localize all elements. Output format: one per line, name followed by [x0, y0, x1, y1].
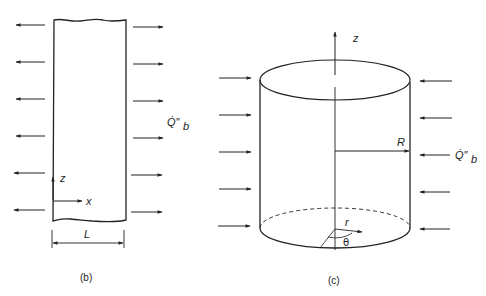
z-axis-label-b: z: [59, 172, 66, 184]
x-axis-label-b: x: [85, 195, 92, 207]
heat-flux-label-c: Q̇″ b: [455, 149, 477, 165]
left-inflow-arrows: [218, 78, 251, 226]
figure-b-slab: Q̇″ b z x L (b): [14, 19, 189, 283]
heat-flux-symbol-c: Q̇″: [455, 149, 469, 161]
caption-b: (b): [80, 272, 92, 283]
figure-c-cylinder: z R r θ Q̇″ b (c): [218, 32, 477, 286]
slab-outline: [53, 19, 126, 222]
left-heat-arrows: [14, 25, 45, 210]
theta-label: θ: [343, 237, 349, 248]
r-direction-arrow: [335, 229, 362, 232]
theta-reference-line: [320, 229, 335, 248]
right-inflow-arrows: [420, 81, 452, 229]
r-label: r: [345, 216, 350, 228]
heat-flux-symbol: Q̇″: [167, 116, 181, 128]
z-axis-label-c: z: [352, 32, 359, 44]
heat-flux-subscript: b: [183, 120, 189, 132]
radius-label-R: R: [397, 136, 405, 148]
diagram-canvas: Q̇″ b z x L (b) z: [0, 0, 486, 296]
heat-flux-label-b: Q̇″ b: [167, 116, 189, 132]
heat-flux-subscript-c: b: [471, 153, 477, 165]
caption-c: (c): [328, 275, 340, 286]
right-heat-arrows: [131, 27, 163, 212]
width-label-L: L: [84, 228, 90, 240]
axes-b: [53, 177, 82, 201]
